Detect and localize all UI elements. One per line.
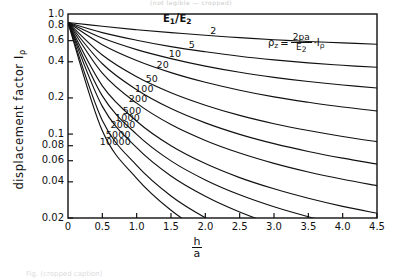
curve-group xyxy=(68,22,377,273)
curve-label: 20 xyxy=(156,59,169,70)
curve-label: 200 xyxy=(129,93,148,104)
data-curve xyxy=(68,22,377,88)
plot-area xyxy=(0,0,394,279)
figure-panel: (not legible — cropped) displacement fac… xyxy=(0,0,394,279)
curve-label: 2 xyxy=(210,25,216,36)
curve-label: 10 xyxy=(169,48,182,59)
data-curve xyxy=(68,22,377,67)
data-curve xyxy=(68,22,377,44)
data-curve xyxy=(68,22,377,273)
curve-label: 5 xyxy=(189,39,195,50)
data-curve xyxy=(68,22,377,185)
bottom-cropped-caption: Fig. (cropped caption) xyxy=(26,270,276,279)
curve-label: 10000 xyxy=(100,136,131,147)
